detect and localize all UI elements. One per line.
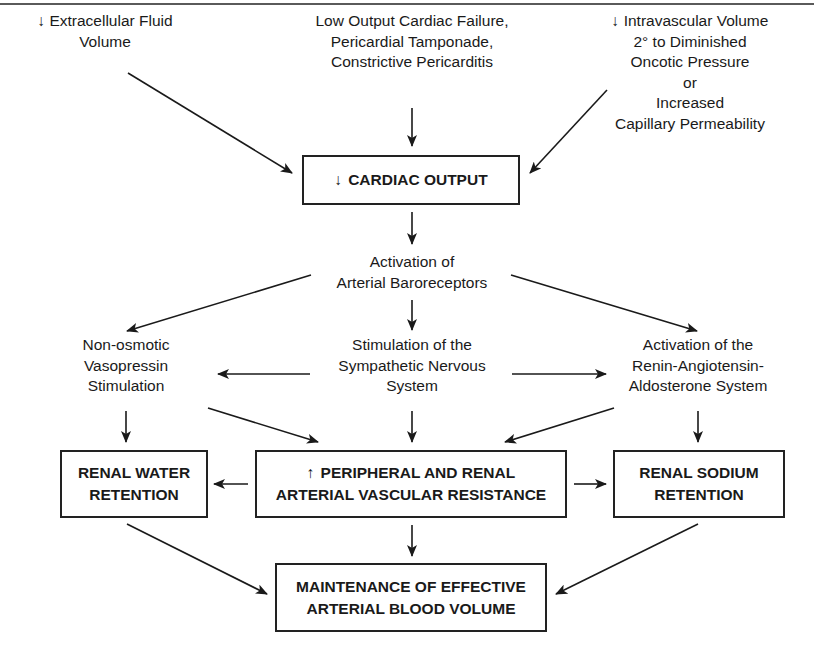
water-line-1: RENAL WATER bbox=[78, 462, 190, 484]
input-intravascular-volume: ↓ Intravascular Volume 2° to Diminished … bbox=[585, 11, 795, 134]
vasopressin-line-2: Vasopressin bbox=[46, 356, 206, 377]
input-right-line-4: or bbox=[585, 73, 795, 94]
vasopressin-stimulation: Non-osmotic Vasopressin Stimulation bbox=[46, 335, 206, 397]
baro-line-2: Arterial Baroreceptors bbox=[262, 273, 562, 294]
raas-activation: Activation of the Renin-Angiotensin- Ald… bbox=[603, 335, 793, 397]
sympathetic-line-2: Sympathetic Nervous bbox=[312, 356, 512, 377]
water-line-2: RETENTION bbox=[89, 484, 179, 506]
input-center-line-3: Constrictive Pericarditis bbox=[262, 52, 562, 73]
vascular-resistance-box: ↑PERIPHERAL AND RENAL ARTERIAL VASCULAR … bbox=[255, 450, 567, 518]
cardiac-output-box: ↓CARDIAC OUTPUT bbox=[302, 155, 520, 205]
arrow-water-to-outcome bbox=[127, 524, 267, 594]
arrow-ecf-to-co bbox=[128, 73, 292, 173]
baroreceptor-activation: Activation of Arterial Baroreceptors bbox=[262, 252, 562, 293]
decrease-arrow-icon: ↓ bbox=[334, 171, 342, 188]
resistance-line-1: PERIPHERAL AND RENAL bbox=[321, 464, 516, 481]
input-center-line-2: Pericardial Tamponade, bbox=[262, 32, 562, 53]
decrease-arrow-icon: ↓ bbox=[37, 12, 45, 29]
effective-arterial-blood-volume-box: MAINTENANCE OF EFFECTIVE ARTERIAL BLOOD … bbox=[275, 563, 547, 632]
input-left-line-2: Volume bbox=[5, 32, 205, 53]
sodium-line-1: RENAL SODIUM bbox=[639, 462, 758, 484]
input-right-line-1: ↓ Intravascular Volume bbox=[585, 11, 795, 32]
increase-arrow-icon: ↑ bbox=[307, 464, 315, 481]
arrow-vasopressin-to-resistance bbox=[208, 408, 318, 442]
sympathetic-line-1: Stimulation of the bbox=[312, 335, 512, 356]
input-extracellular-fluid: ↓ Extracellular Fluid Volume bbox=[5, 11, 205, 52]
input-left-line-1: ↓ Extracellular Fluid bbox=[5, 11, 205, 32]
raas-line-1: Activation of the bbox=[603, 335, 793, 356]
input-right-line-3: Oncotic Pressure bbox=[585, 52, 795, 73]
vasopressin-line-3: Stimulation bbox=[46, 376, 206, 397]
sympathetic-line-3: System bbox=[312, 376, 512, 397]
decrease-arrow-icon: ↓ bbox=[612, 12, 620, 29]
sodium-line-2: RETENTION bbox=[654, 484, 744, 506]
cardiac-output-label: CARDIAC OUTPUT bbox=[348, 171, 488, 188]
vasopressin-line-1: Non-osmotic bbox=[46, 335, 206, 356]
sympathetic-stimulation: Stimulation of the Sympathetic Nervous S… bbox=[312, 335, 512, 397]
input-center-line-1: Low Output Cardiac Failure, bbox=[262, 11, 562, 32]
input-right-line-5: Increased bbox=[585, 93, 795, 114]
renal-water-retention-box: RENAL WATER RETENTION bbox=[60, 450, 208, 518]
outcome-line-1: MAINTENANCE OF EFFECTIVE bbox=[296, 576, 526, 598]
baro-line-1: Activation of bbox=[262, 252, 562, 273]
raas-line-3: Aldosterone System bbox=[603, 376, 793, 397]
raas-line-2: Renin-Angiotensin- bbox=[603, 356, 793, 377]
arrow-sodium-to-outcome bbox=[556, 524, 698, 594]
input-right-line-2: 2° to Diminished bbox=[585, 32, 795, 53]
renal-sodium-retention-box: RENAL SODIUM RETENTION bbox=[613, 450, 785, 518]
resistance-line-2: ARTERIAL VASCULAR RESISTANCE bbox=[276, 484, 546, 506]
input-cardiac-failure: Low Output Cardiac Failure, Pericardial … bbox=[262, 11, 562, 73]
arrow-raas-to-resistance bbox=[505, 408, 614, 442]
input-right-line-6: Capillary Permeability bbox=[585, 114, 795, 135]
outcome-line-2: ARTERIAL BLOOD VOLUME bbox=[307, 598, 516, 620]
